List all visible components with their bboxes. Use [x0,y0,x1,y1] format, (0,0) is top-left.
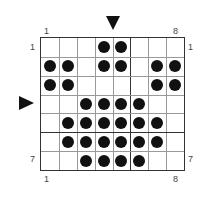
filled-dot [133,117,145,129]
left-arrow-icon [19,96,34,110]
col-label-bottom-right: 8 [173,174,178,184]
filled-dot [115,41,127,53]
filled-dot [98,98,110,110]
filled-dot [80,136,92,148]
col-label-top-right: 8 [173,26,178,36]
grid-line-horizontal [41,57,184,58]
filled-dot [80,117,92,129]
filled-dot [151,79,163,91]
filled-dot [98,117,110,129]
row-label-left-top: 1 [30,42,35,52]
filled-dot [80,155,92,167]
filled-dot [44,60,56,72]
filled-dot [169,79,181,91]
row-label-right-top: 1 [188,42,193,52]
filled-dot [62,60,74,72]
filled-dot [115,155,127,167]
row-label-left-bottom: 7 [30,154,35,164]
filled-dot [133,98,145,110]
filled-dot [98,41,110,53]
filled-dot [133,155,145,167]
filled-dot [169,60,181,72]
filled-dot [44,79,56,91]
filled-dot [98,136,110,148]
grid-line-horizontal [41,95,184,96]
filled-dot [98,60,110,72]
col-label-top-left: 1 [44,26,49,36]
top-arrow-icon [106,16,120,30]
grid-line-horizontal [41,113,184,114]
filled-dot [115,136,127,148]
filled-dot [151,60,163,72]
dot-grid [40,37,185,171]
filled-dot [115,117,127,129]
filled-dot [115,60,127,72]
filled-dot [62,136,74,148]
filled-dot [98,155,110,167]
grid-line-horizontal [41,76,184,77]
filled-dot [151,117,163,129]
grid-line-horizontal [41,151,184,152]
filled-dot [151,136,163,148]
grid-line-horizontal [41,132,184,133]
filled-dot [80,98,92,110]
row-label-right-bottom: 7 [188,154,193,164]
filled-dot [62,117,74,129]
col-label-bottom-left: 1 [44,174,49,184]
filled-dot [62,79,74,91]
filled-dot [133,136,145,148]
filled-dot [115,98,127,110]
